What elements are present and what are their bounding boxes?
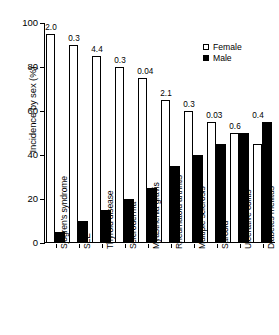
y-tick-mark [40,243,44,244]
x-tick-mark [194,244,195,248]
bar-annotation: 0.03 [206,112,222,120]
legend-label-female: Female [213,42,242,53]
bar-annotation: 0.3 [68,35,79,43]
bar-annotation: 0.3 [183,101,194,109]
bar-female [253,144,262,243]
legend-label-male: Male [213,53,232,64]
bar-female [184,111,193,243]
bar-female [207,122,216,243]
y-tick-label: 40 [27,149,38,160]
x-tick-mark [56,244,57,248]
y-tick-label: 20 [27,193,38,204]
x-axis-label: Ulcerative colitis [243,190,253,249]
y-tick-mark [40,155,44,156]
bar-female [161,100,170,243]
x-axis-label: SLE [82,233,92,249]
x-tick-mark [125,244,126,248]
bar-annotation: 0.6 [229,123,240,131]
legend-item-male: Male [203,53,242,64]
bar-group: 0.3 [69,23,87,243]
x-axis-label: Scleroderma [128,202,138,249]
bar-annotation: 2.0 [45,24,56,32]
y-axis-line [44,23,45,244]
y-tick-label: 60 [27,105,38,116]
x-tick-mark [79,244,80,248]
x-axis-label: Diabetes mellitus [266,186,276,249]
y-tick-mark [40,111,44,112]
bar-female [46,34,55,243]
x-axis-label: Rheumatoid arthritis [174,175,184,249]
y-tick-label: 80 [27,61,38,72]
x-tick-mark [148,244,149,248]
legend-item-female: Female [203,42,242,53]
x-tick-mark [240,244,241,248]
bar-annotation: 0.04 [137,68,153,76]
x-axis-label: Sarcoid [220,221,230,249]
bar-female [230,133,239,243]
bar-female [138,78,147,243]
x-axis-label: Multiple sclerosis [197,186,207,249]
y-tick-mark [40,67,44,68]
chart-legend: Female Male [203,42,242,63]
bar-female [115,67,124,243]
x-axis-label: Thyroid disease [105,191,115,249]
bar-annotation: 0.4 [252,112,263,120]
x-tick-mark [217,244,218,248]
legend-swatch-female-icon [203,44,209,50]
bar-annotation: 4.4 [91,46,102,54]
bar-chart-figure: Incidence by sex (%) 020406080100 2.00.3… [0,0,279,335]
bar-annotation: 0.3 [114,57,125,65]
bar-female [69,45,78,243]
legend-swatch-male-icon [203,55,209,61]
y-tick-label: 0 [33,237,38,248]
x-axis-label: Sjogren's syndrome [59,176,69,249]
bar-female [92,56,101,243]
x-tick-mark [102,244,103,248]
y-tick-label: 100 [22,17,38,28]
x-tick-mark [171,244,172,248]
x-axis-label: Myasthenia gravis [151,182,161,249]
bar-annotation: 2.1 [160,90,171,98]
y-tick-mark [40,199,44,200]
x-tick-mark [263,244,264,248]
y-tick-mark [40,23,44,24]
